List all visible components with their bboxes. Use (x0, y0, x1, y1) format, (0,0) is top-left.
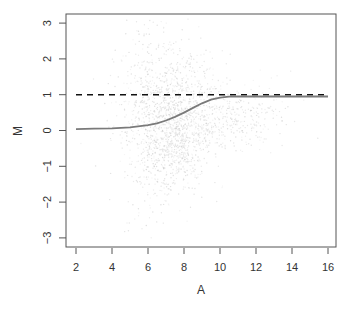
y-axis-label: M (11, 126, 25, 136)
y-tick-label: 2 (41, 56, 53, 62)
x-tick-label: 2 (73, 261, 79, 273)
plot-frame (66, 14, 336, 247)
y-axis: −3−2−10123 (41, 20, 66, 244)
x-tick-label: 16 (322, 261, 334, 273)
x-axis: 246810121416 (73, 248, 334, 273)
x-axis-label: A (197, 283, 205, 297)
ma-plot: 246810121416 −3−2−10123 A M (0, 0, 352, 310)
x-tick-label: 4 (109, 261, 115, 273)
y-tick-label: −2 (41, 196, 53, 209)
fitted-curve (76, 97, 328, 130)
x-tick-label: 10 (214, 261, 226, 273)
x-tick-label: 8 (181, 261, 187, 273)
y-tick-label: −3 (41, 232, 53, 245)
y-tick-label: 0 (41, 127, 53, 133)
x-tick-label: 12 (250, 261, 262, 273)
y-tick-label: 1 (41, 92, 53, 98)
x-tick-label: 6 (145, 261, 151, 273)
y-tick-label: 3 (41, 20, 53, 26)
y-tick-label: −1 (41, 160, 53, 173)
x-tick-label: 14 (286, 261, 298, 273)
